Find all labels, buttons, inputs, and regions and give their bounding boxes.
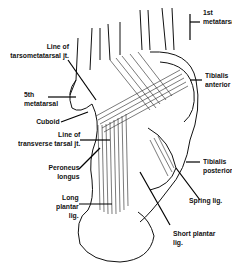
- label-cuboid: Cuboid: [37, 117, 60, 126]
- label-fifth-metatarsal: 5th metatarsal: [24, 90, 58, 108]
- label-line: Line of: [18, 130, 80, 139]
- label-line: Long: [56, 193, 79, 202]
- label-line: plantar: [56, 202, 79, 211]
- label-line: anterior: [205, 80, 230, 89]
- label-long-plantar-lig: Long plantar lig.: [56, 193, 79, 220]
- label-line: longus: [48, 172, 79, 181]
- label-line-of-transverse-tarsal-jt: Line of transverse tarsal jt.: [18, 130, 80, 148]
- label-line: lig.: [173, 238, 215, 247]
- label-tibialis-posterior: Tibialis posterior: [203, 157, 232, 175]
- label-line: transverse tarsal jt.: [18, 139, 80, 148]
- label-line: posterior: [203, 166, 232, 175]
- label-first-metatarsal: 1st metatarsal: [203, 8, 232, 26]
- label-tibialis-anterior: Tibialis anterior: [205, 71, 230, 89]
- label-short-plantar-lig: Short plantar lig.: [173, 229, 215, 247]
- label-spring-lig: Spring lig.: [189, 196, 222, 205]
- label-line: Short plantar: [173, 229, 215, 238]
- label-line: lig.: [56, 211, 79, 220]
- label-peroneus-longus: Peroneus longus: [48, 163, 79, 181]
- label-line: 5th: [24, 90, 58, 99]
- label-line: Spring lig.: [189, 196, 222, 205]
- label-line: Cuboid: [37, 117, 60, 126]
- label-line: Tibialis: [205, 71, 230, 80]
- label-line: 1st: [203, 8, 232, 17]
- label-line: Tibialis: [203, 157, 232, 166]
- label-line: Peroneus: [48, 163, 79, 172]
- label-line: metatarsal: [24, 99, 58, 108]
- label-line: Line of: [10, 42, 69, 51]
- label-line-of-tarsometatarsal-jt: Line of tarsometatarsal jt.: [10, 42, 69, 60]
- label-line: tarsometatarsal jt.: [10, 51, 69, 60]
- label-line: metatarsal: [203, 17, 232, 26]
